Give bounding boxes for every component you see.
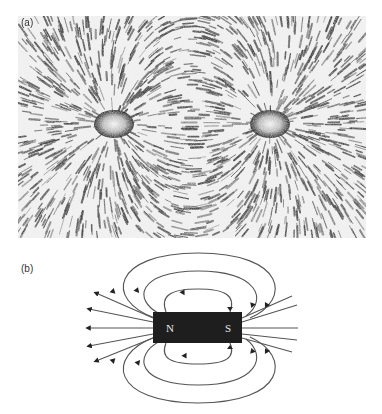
field-loop-top-inner	[164, 289, 231, 312]
arrow-icon	[227, 345, 233, 349]
field-line-n-4	[89, 334, 153, 346]
north-pole-label: N	[166, 322, 174, 334]
field-loop-top-mid	[144, 271, 257, 316]
arrow-icon	[110, 358, 117, 364]
south-pole-label: S	[225, 322, 231, 334]
field-line-s-2	[242, 305, 297, 322]
arrow-icon	[110, 287, 117, 293]
arrow-icon	[133, 286, 140, 293]
arrow-icon	[227, 307, 233, 311]
arrow-icon	[179, 288, 187, 295]
iron-filings-photo	[18, 16, 366, 238]
arrow-icon	[181, 353, 189, 360]
field-loop-bottom-outer	[123, 337, 275, 403]
panel-label-a: (a)	[21, 17, 33, 28]
field-line-n-2	[89, 309, 153, 322]
field-line-diagram: N S	[0, 245, 382, 414]
field-loop-bottom-inner	[164, 343, 231, 364]
field-loop-top-outer	[123, 253, 275, 318]
arrow-icon	[134, 360, 141, 367]
field-loop-bottom-mid	[144, 339, 257, 385]
